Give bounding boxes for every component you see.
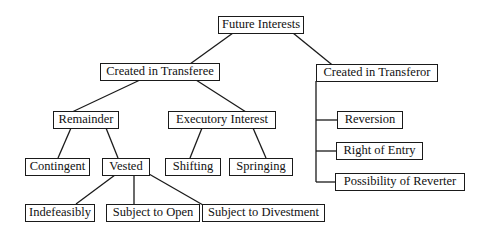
- node-reversion: Reversion: [337, 111, 403, 129]
- future-interests-diagram: Future Interests Created in Transferee C…: [0, 0, 487, 237]
- node-springing: Springing: [229, 158, 293, 176]
- node-executory-interest: Executory Interest: [168, 111, 276, 129]
- node-created-in-transferee: Created in Transferee: [100, 63, 220, 81]
- node-created-in-transferor: Created in Transferor: [316, 64, 438, 82]
- node-shifting: Shifting: [165, 158, 221, 176]
- node-future-interests: Future Interests: [218, 16, 304, 34]
- node-subject-to-open: Subject to Open: [106, 204, 200, 222]
- node-vested: Vested: [102, 158, 150, 176]
- node-possibility-of-reverter: Possibility of Reverter: [335, 173, 465, 191]
- node-contingent: Contingent: [25, 158, 90, 176]
- node-remainder: Remainder: [53, 111, 119, 129]
- node-subject-to-divestment: Subject to Divestment: [202, 204, 325, 222]
- node-right-of-entry: Right of Entry: [336, 142, 423, 160]
- node-indefeasibly: Indefeasibly: [25, 204, 95, 222]
